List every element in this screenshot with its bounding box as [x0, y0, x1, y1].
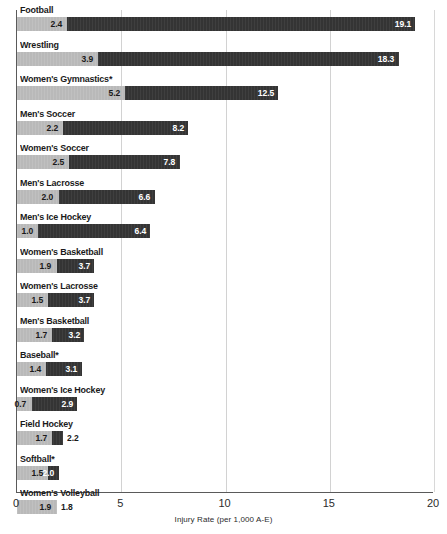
x-axis-tick-labels: 05101520: [0, 496, 447, 512]
bar-row: Football19.12.4: [17, 3, 433, 38]
bar-row: Wrestling18.33.9: [17, 38, 433, 73]
bar-row: Softball*2.01.5: [17, 452, 433, 487]
bar-row-label: Baseball*: [20, 348, 59, 361]
bar-row: Men's Basketball3.21.7: [17, 314, 433, 349]
bar-value-game: 3.7: [79, 260, 91, 272]
bar-value-practice: 1.9: [40, 260, 52, 272]
bar-value-game: 7.8: [164, 156, 176, 168]
bar-value-game: 2.9: [62, 398, 74, 410]
bar-row-label: Field Hockey: [20, 417, 73, 430]
bar-value-practice: 2.2: [46, 122, 58, 134]
bar-value-game: 19.1: [395, 18, 411, 30]
bar-value-practice: 1.4: [30, 363, 42, 375]
bar-row-label: Men's Lacrosse: [20, 176, 84, 189]
bar-value-practice: 1.5: [32, 467, 44, 479]
bar-value-game: 8.2: [172, 122, 184, 134]
bar-row-label: Women's Basketball: [20, 245, 103, 258]
bar-value-game: 3.1: [66, 363, 78, 375]
bar-rows: Football19.12.4Wrestling18.33.9Women's G…: [17, 10, 433, 492]
bar-row: Field Hockey2.21.7: [17, 417, 433, 452]
x-axis-title: Injury Rate (per 1,000 A-E): [0, 515, 447, 524]
bar-row: Women's Lacrosse3.71.5: [17, 279, 433, 314]
bar-value-practice: 3.9: [82, 53, 94, 65]
bar-value-game: 3.7: [79, 294, 91, 306]
bar-value-game: 12.5: [257, 87, 273, 99]
bar-row-label: Men's Basketball: [20, 314, 89, 327]
bar-slot: 2.21.7: [17, 431, 433, 445]
bar-row: Men's Ice Hockey6.41.0: [17, 210, 433, 245]
bar-slot: 3.71.9: [17, 259, 433, 273]
bar-row: Women's Soccer7.82.5: [17, 141, 433, 176]
bar-row: Men's Soccer8.22.2: [17, 107, 433, 142]
bar-value-practice: 2.4: [50, 18, 62, 30]
bar-value-practice: 2.5: [53, 156, 65, 168]
bar-game: [17, 17, 415, 31]
bar-value-practice: 2.0: [42, 191, 54, 203]
plot-area: Football19.12.4Wrestling18.33.9Women's G…: [16, 10, 433, 493]
bar-slot: 18.33.9: [17, 52, 433, 66]
bar-slot: 7.82.5: [17, 155, 433, 169]
injury-rate-bar-chart: Football19.12.4Wrestling18.33.9Women's G…: [0, 0, 447, 534]
bar-value-practice: 5.2: [109, 87, 121, 99]
x-tick-0: 0: [13, 496, 19, 510]
bar-row-label: Softball*: [20, 452, 55, 465]
bar-row-label: Men's Soccer: [20, 107, 75, 120]
bar-value-practice: 0.7: [15, 398, 27, 410]
bar-value-practice: 1.7: [36, 329, 48, 341]
gridline-20: [434, 10, 435, 492]
bar-value-game: 6.4: [135, 225, 147, 237]
bar-slot: 8.22.2: [17, 121, 433, 135]
bar-row-label: Women's Lacrosse: [20, 279, 98, 292]
x-tick-15: 15: [323, 496, 335, 510]
bar-row-label: Women's Soccer: [20, 141, 89, 154]
bar-row-label: Men's Ice Hockey: [20, 210, 91, 223]
bar-row: Baseball*3.11.4: [17, 348, 433, 383]
bar-slot: 6.62.0: [17, 190, 433, 204]
bar-slot: 3.71.5: [17, 293, 433, 307]
x-tick-20: 20: [427, 496, 439, 510]
bar-slot: 12.55.2: [17, 86, 433, 100]
bar-slot: 2.01.5: [17, 466, 433, 480]
bar-slot: 6.41.0: [17, 224, 433, 238]
bar-slot: 19.12.4: [17, 17, 433, 31]
bar-value-game: 2.0: [43, 467, 55, 479]
bar-row: Women's Ice Hockey2.90.7: [17, 383, 433, 418]
bar-row: Women's Basketball3.71.9: [17, 245, 433, 280]
bar-value-game: 6.6: [139, 191, 151, 203]
bar-row: Men's Lacrosse6.62.0: [17, 176, 433, 211]
bar-value-practice: 1.0: [21, 225, 33, 237]
bar-value-game: 3.2: [68, 329, 80, 341]
x-tick-5: 5: [117, 496, 123, 510]
bar-row: Women's Gymnastics*12.55.2: [17, 72, 433, 107]
bar-row-label: Women's Ice Hockey: [20, 383, 105, 396]
bar-value-game: 18.3: [378, 53, 394, 65]
bar-row-label: Football: [20, 3, 53, 16]
bar-slot: 3.11.4: [17, 362, 433, 376]
x-tick-10: 10: [218, 496, 230, 510]
bar-row-label: Women's Gymnastics*: [20, 72, 112, 85]
bar-value-practice: 1.5: [32, 294, 44, 306]
bar-row-label: Wrestling: [20, 38, 59, 51]
bar-slot: 2.90.7: [17, 397, 433, 411]
bar-value-game: 2.2: [67, 432, 79, 444]
bar-value-practice: 1.7: [36, 432, 48, 444]
bar-slot: 3.21.7: [17, 328, 433, 342]
